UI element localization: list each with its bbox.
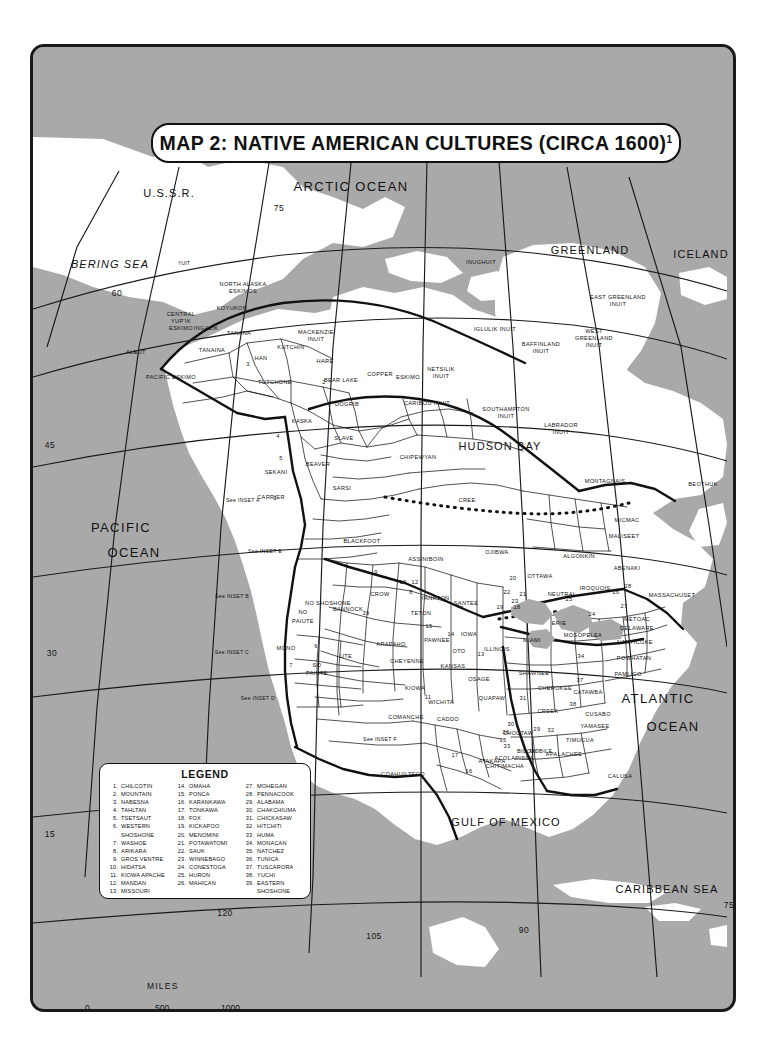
legend-entry-number: 16. bbox=[173, 798, 189, 806]
legend-entry: 23.WINNEBAGO bbox=[173, 855, 237, 863]
legend-entry: 10.HIDATSA bbox=[105, 863, 169, 871]
legend-entry: 31.CHICKASAW bbox=[241, 814, 305, 822]
legend-entry-number: 35. bbox=[241, 847, 257, 855]
legend-entry: 32.HITCHITI bbox=[241, 822, 305, 830]
legend-entry-name: ALABAMA bbox=[257, 798, 305, 806]
legend-entry-name: HIDATSA bbox=[121, 863, 169, 871]
legend-entry: 33.HUMA bbox=[241, 831, 305, 839]
legend-entry-number: 20. bbox=[173, 831, 189, 839]
legend-entry-number: 32. bbox=[241, 822, 257, 830]
legend-entry-number: 31. bbox=[241, 814, 257, 822]
legend-entry: 19.KICKAPOO bbox=[173, 822, 237, 830]
legend-entry-number: 33. bbox=[241, 831, 257, 839]
legend-entry-name: MISSOURI bbox=[121, 887, 169, 895]
legend-entry-number: 38. bbox=[241, 871, 257, 879]
legend-entry-number: 1. bbox=[105, 782, 121, 790]
legend-entry-number: 21. bbox=[173, 839, 189, 847]
legend-entry-name: WASHOE bbox=[121, 839, 169, 847]
legend-entry-name: GROS VENTRE bbox=[121, 855, 169, 863]
legend-entry: 8.ARIKARA bbox=[105, 847, 169, 855]
legend-entry: 28.PENNACOOK bbox=[241, 790, 305, 798]
legend-entry-name-continued: SHOSHONE bbox=[105, 831, 169, 839]
legend-entry-name: FOX bbox=[189, 814, 237, 822]
legend-entry-name: CHICKASAW bbox=[257, 814, 305, 822]
legend-entry-number: 3. bbox=[105, 798, 121, 806]
map-title-plate: MAP 2: NATIVE AMERICAN CULTURES (CIRCA 1… bbox=[151, 123, 681, 163]
legend-entry-name: KIOWA APACHE bbox=[121, 871, 169, 879]
legend-entry: 2.MOUNTAIN bbox=[105, 790, 169, 798]
legend-entry: 37.TUSCARORA bbox=[241, 863, 305, 871]
legend-entry: 25.HURON bbox=[173, 871, 237, 879]
legend-entry-number: 25. bbox=[173, 871, 189, 879]
legend-entry: 7.WASHOE bbox=[105, 839, 169, 847]
legend-entry: 36.TUNICA bbox=[241, 855, 305, 863]
legend-entry: 24.CONESTOGA bbox=[173, 863, 237, 871]
legend-entry: 14.OMAHA bbox=[173, 782, 237, 790]
legend-entry-number: 12. bbox=[105, 879, 121, 887]
legend-entry-number: 27. bbox=[241, 782, 257, 790]
legend-entry-name: TAHLTAN bbox=[121, 806, 169, 814]
legend-column-1: 1.CHILCOTIN2.MOUNTAIN3.NABESNA4.TAHLTAN5… bbox=[105, 782, 169, 895]
legend-entry-name: OMAHA bbox=[189, 782, 237, 790]
title-footnote-marker: 1 bbox=[666, 133, 672, 144]
legend-entry-name: MENOMINI bbox=[189, 831, 237, 839]
legend-entry: 20.MENOMINI bbox=[173, 831, 237, 839]
legend-entry: 6.WESTERN bbox=[105, 822, 169, 830]
legend-entry-name: ARIKARA bbox=[121, 847, 169, 855]
legend-entry-name: WESTERN bbox=[121, 822, 169, 830]
legend-entry-name: TUSCARORA bbox=[257, 863, 305, 871]
legend-entry-name: KICKAPOO bbox=[189, 822, 237, 830]
legend-entry-name: TONKAWA bbox=[189, 806, 237, 814]
legend-entry-number: 13. bbox=[105, 887, 121, 895]
legend-entry-number: 18. bbox=[173, 814, 189, 822]
legend-entry: 39.EASTERN bbox=[241, 879, 305, 887]
legend-entry-name: HURON bbox=[189, 871, 237, 879]
legend-entry-number: 24. bbox=[173, 863, 189, 871]
legend-entry-number: 6. bbox=[105, 822, 121, 830]
legend-entry: 21.POTAWATOMI bbox=[173, 839, 237, 847]
legend-entry-number: 9. bbox=[105, 855, 121, 863]
legend-entry-number: 28. bbox=[241, 790, 257, 798]
legend-entry: 26.MAHICAN bbox=[173, 879, 237, 887]
legend-column-2: 14.OMAHA15.PONCA16.KARANKAWA17.TONKAWA18… bbox=[173, 782, 237, 895]
legend-entry-name: MONACAN bbox=[257, 839, 305, 847]
legend-entry: 18.FOX bbox=[173, 814, 237, 822]
legend-entry-number: 37. bbox=[241, 863, 257, 871]
legend-entry-name: CHAKCHIUMA bbox=[257, 806, 305, 814]
legend-entry-name: NATCHEZ bbox=[257, 847, 305, 855]
legend-entry: 3.NABESNA bbox=[105, 798, 169, 806]
legend-entry: 12.MANDAN bbox=[105, 879, 169, 887]
legend-entry-name: HITCHITI bbox=[257, 822, 305, 830]
legend-entry-number: 23. bbox=[173, 855, 189, 863]
legend-title: LEGEND bbox=[105, 768, 305, 780]
legend-entry: 13.MISSOURI bbox=[105, 887, 169, 895]
legend-entry: 5.TSETSAUT bbox=[105, 814, 169, 822]
legend-entry-number: 39. bbox=[241, 879, 257, 887]
legend-entry-number: 10. bbox=[105, 863, 121, 871]
legend-entry-name: MOHEGAN bbox=[257, 782, 305, 790]
legend-entry: 11.KIOWA APACHE bbox=[105, 871, 169, 879]
legend-entry-number: 29. bbox=[241, 798, 257, 806]
legend-entry-name: MAHICAN bbox=[189, 879, 237, 887]
legend-entry-name: PENNACOOK bbox=[257, 790, 305, 798]
legend-entry-name: CONESTOGA bbox=[189, 863, 237, 871]
legend-column-3: 27.MOHEGAN28.PENNACOOK29.ALABAMA30.CHAKC… bbox=[241, 782, 305, 895]
legend-entry-name: EASTERN bbox=[257, 879, 305, 887]
legend-entry-name: YUCHI bbox=[257, 871, 305, 879]
legend-entry-number: 7. bbox=[105, 839, 121, 847]
legend-entry-number: 2. bbox=[105, 790, 121, 798]
legend-columns: 1.CHILCOTIN2.MOUNTAIN3.NABESNA4.TAHLTAN5… bbox=[105, 782, 305, 895]
page-title: MAP 2: NATIVE AMERICAN CULTURES (CIRCA 1… bbox=[160, 132, 673, 155]
legend-entry: 29.ALABAMA bbox=[241, 798, 305, 806]
legend-entry: 17.TONKAWA bbox=[173, 806, 237, 814]
legend-entry-name: NABESNA bbox=[121, 798, 169, 806]
legend-entry-name: POTAWATOMI bbox=[189, 839, 237, 847]
map-frame: MAP 2: NATIVE AMERICAN CULTURES (CIRCA 1… bbox=[30, 44, 736, 1012]
legend-entry-name: HUMA bbox=[257, 831, 305, 839]
legend-entry: 9.GROS VENTRE bbox=[105, 855, 169, 863]
legend-entry-number: 17. bbox=[173, 806, 189, 814]
legend-entry-number: 34. bbox=[241, 839, 257, 847]
legend-entry-number: 14. bbox=[173, 782, 189, 790]
legend-entry-number: 11. bbox=[105, 871, 121, 879]
legend-entry: 16.KARANKAWA bbox=[173, 798, 237, 806]
